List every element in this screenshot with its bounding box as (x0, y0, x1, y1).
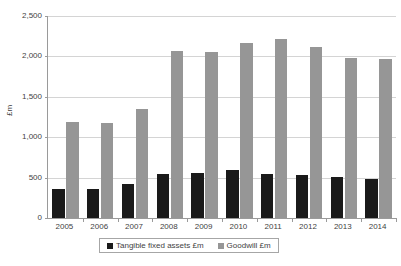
bar (226, 170, 239, 218)
y-axis-tick-labels: 05001,0001,5002,0002,500 (10, 0, 42, 266)
bar (331, 177, 344, 218)
bar (87, 189, 100, 218)
bar (275, 39, 288, 218)
x-axis-tick-label: 2010 (221, 222, 256, 232)
y-axis-tickmark (45, 218, 48, 219)
x-axis-tick-label: 2007 (117, 222, 152, 232)
x-axis-tick-label: 2006 (82, 222, 117, 232)
bar (379, 59, 392, 218)
y-axis-tick-label: 2,000 (12, 52, 42, 60)
legend-label: Tangible fixed assets £m (116, 242, 204, 250)
x-axis-tick-label: 2013 (325, 222, 360, 232)
bar (261, 174, 274, 218)
x-axis-tick-label: 2011 (256, 222, 291, 232)
legend-item: Tangible fixed assets £m (107, 242, 204, 250)
bar (310, 47, 323, 218)
legend-swatch-icon (107, 243, 113, 249)
bar (365, 179, 378, 218)
x-axis-tick-labels: 2005200620072008200920102011201220132014 (47, 222, 395, 236)
chart-legend: Tangible fixed assets £mGoodwill £m (99, 238, 279, 253)
y-axis-tick-label: 1,500 (12, 93, 42, 101)
bar-chart: £m 05001,0001,5002,0002,500 200520062007… (0, 0, 401, 266)
x-axis-tick-label: 2014 (360, 222, 395, 232)
bar (122, 184, 135, 218)
plot-area (47, 16, 396, 219)
bar (66, 122, 79, 218)
x-axis-tick-label: 2008 (151, 222, 186, 232)
bar (191, 173, 204, 218)
x-axis-tick-label: 2012 (291, 222, 326, 232)
bar (296, 175, 309, 218)
bars-layer (48, 16, 396, 218)
bar (345, 58, 358, 218)
bar (136, 109, 149, 218)
x-axis-tick-label: 2005 (47, 222, 82, 232)
y-axis-tick-label: 500 (12, 174, 42, 182)
bar (52, 189, 65, 218)
bar (205, 52, 218, 218)
y-axis-tick-label: 0 (12, 214, 42, 222)
bar (171, 51, 184, 218)
y-axis-tick-label: 1,000 (12, 133, 42, 141)
y-axis-tick-label: 2,500 (12, 12, 42, 20)
bar (101, 123, 114, 218)
legend-label: Goodwill £m (227, 242, 271, 250)
bar (157, 174, 170, 218)
x-axis-tickmark (396, 218, 397, 222)
legend-swatch-icon (218, 243, 224, 249)
x-axis-tick-label: 2009 (186, 222, 221, 232)
bar (240, 43, 253, 218)
legend-item: Goodwill £m (218, 242, 271, 250)
